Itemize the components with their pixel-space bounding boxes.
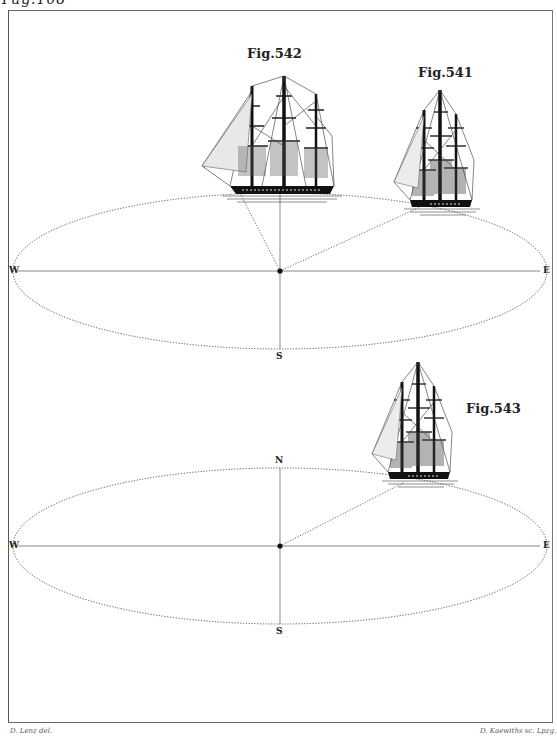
figure-label-543: Fig.543	[466, 401, 521, 416]
lower-south-label: S	[276, 626, 283, 636]
upper-west-label: W	[9, 265, 19, 275]
upper-south-label: S	[276, 351, 283, 361]
figure-label-541: Fig.541	[418, 65, 473, 80]
upper-east-label: E	[543, 265, 550, 275]
upper-compass-diagram	[13, 76, 547, 349]
credit-draftsman: D. Lenz del.	[10, 727, 52, 735]
lower-north-label: N	[275, 455, 283, 465]
lower-west-label: W	[9, 540, 19, 550]
figure-label-542: Fig.542	[247, 46, 302, 61]
lower-east-label: E	[543, 540, 550, 550]
credit-engraver: D. Kaewiths sc. Lpzg.	[480, 727, 556, 735]
